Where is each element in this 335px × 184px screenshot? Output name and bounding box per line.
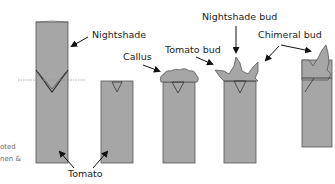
graft-stem <box>36 21 68 163</box>
cut-stock-stem <box>101 81 133 163</box>
diagram-canvas <box>0 0 335 184</box>
side-text-line1: oted <box>0 144 16 151</box>
side-text-line2: nen & <box>0 156 21 163</box>
label-chimeral-bud: Chimeral bud <box>258 30 322 40</box>
callus-stem <box>160 69 198 163</box>
label-tomato: Tomato <box>68 169 103 179</box>
label-callus: Callus <box>123 52 152 62</box>
callus-arrow <box>143 65 159 71</box>
label-nightshade-bud: Nightshade bud <box>202 12 277 22</box>
tomato-bud-arrow <box>196 57 212 64</box>
label-nightshade: Nightshade <box>92 30 146 40</box>
chimeral-bud-arrow-left <box>266 46 279 60</box>
chimeral-bud-arrow-right <box>281 45 310 51</box>
chimera-stem <box>302 45 332 147</box>
grafting-diagram: Nightshade Callus Tomato bud Nightshade … <box>0 0 335 184</box>
nightshade-arrow <box>72 37 88 46</box>
buds-stem <box>215 57 258 163</box>
label-tomato-bud: Tomato bud <box>165 45 221 55</box>
